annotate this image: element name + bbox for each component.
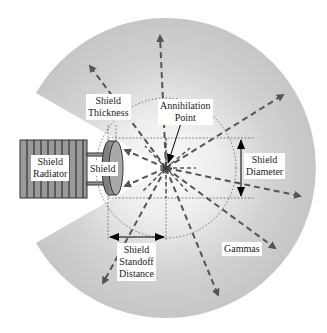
- label-shield-diameter: Shield Diameter: [244, 153, 285, 179]
- label-shield: Shield: [88, 162, 118, 176]
- label-annihilation-point: Annihilation Point: [158, 99, 213, 125]
- label-gammas: Gammas: [222, 242, 262, 256]
- label-shield-standoff-distance: Shield Standoff Distance: [117, 243, 156, 281]
- label-shield-radiator: Shield Radiator: [31, 155, 69, 181]
- shield-diagram: Shield Thickness Annihilation Point Shie…: [0, 0, 327, 333]
- label-shield-thickness: Shield Thickness: [86, 94, 131, 120]
- annihilation-star-icon: [160, 162, 172, 174]
